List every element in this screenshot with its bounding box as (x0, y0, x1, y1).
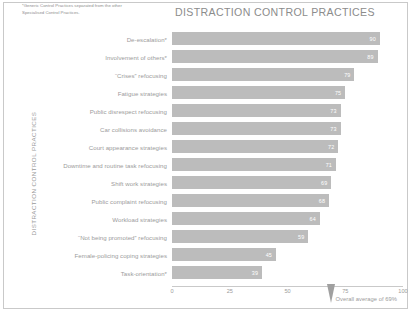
bar-value-label: 73 (330, 108, 336, 114)
category-label: Fatigue strategies (118, 89, 167, 96)
bar[interactable]: 90 (172, 32, 380, 45)
x-axis-tick-label: 50 (284, 288, 290, 294)
category-label: Task-orientation* (121, 269, 167, 276)
bar-value-label: 73 (330, 126, 336, 132)
category-label: Public disrespect refocusing (90, 107, 167, 114)
category-label: “Crises” refocusing (115, 71, 167, 78)
bar-value-label: 79 (344, 72, 350, 78)
bar[interactable]: 59 (172, 230, 308, 243)
bar-row: Shift work strategies69 (172, 176, 403, 189)
category-label: Court appearance strategies (89, 143, 167, 150)
bar[interactable]: 89 (172, 50, 378, 63)
bar-value-label: 64 (310, 216, 316, 222)
bar-value-label: 68 (319, 198, 325, 204)
bar-value-label: 59 (298, 234, 304, 240)
bar-value-label: 39 (252, 270, 258, 276)
bar-value-label: 69 (321, 180, 327, 186)
bar[interactable]: 79 (172, 68, 354, 81)
bar-row: Court appearance strategies72 (172, 140, 403, 153)
bar-row: Female-policing coping strategies45 (172, 248, 403, 261)
chart-figure: *Generic Control Practices separated fro… (0, 0, 411, 313)
category-label: Involvement of others* (105, 53, 167, 60)
category-label: De-escalation* (127, 35, 167, 42)
bar-row: De-escalation*90 (172, 32, 403, 45)
bar-value-label: 90 (370, 36, 376, 42)
bar-value-label: 72 (328, 144, 334, 150)
chart-title: DISTRACTION CONTROL PRACTICES (150, 6, 400, 18)
category-label: Car collisions avoidance (100, 125, 167, 132)
bar-row: Involvement of others*89 (172, 50, 403, 63)
y-axis-title: DISTRACTION CONTROL PRACTICES (30, 86, 37, 261)
bar[interactable]: 72 (172, 140, 338, 153)
bar-row: Car collisions avoidance73 (172, 122, 403, 135)
category-label: “Not being promoted” refocusing (78, 233, 167, 240)
category-label: Downtime and routine task refocusing (63, 161, 167, 168)
bar-value-label: 75 (335, 90, 341, 96)
plot-area: De-escalation*90Involvement of others*89… (172, 30, 403, 282)
bar[interactable]: 73 (172, 122, 341, 135)
average-marker-icon (327, 284, 335, 303)
x-axis-tick-label: 0 (170, 288, 173, 294)
x-axis-tick-label: 25 (227, 288, 233, 294)
bar-row: Public disrespect refocusing73 (172, 104, 403, 117)
bar[interactable]: 45 (172, 248, 276, 261)
bar[interactable]: 68 (172, 194, 329, 207)
bar-row: Downtime and routine task refocusing71 (172, 158, 403, 171)
bar-row: Task-orientation*39 (172, 266, 403, 279)
x-axis-tick-label: 75 (342, 288, 348, 294)
bar-row: Workload strategies64 (172, 212, 403, 225)
category-label: Workload strategies (112, 215, 167, 222)
bar-value-label: 89 (367, 54, 373, 60)
footnote-text: *Generic Control Practices separated fro… (22, 3, 130, 17)
bar-row: “Crises” refocusing79 (172, 68, 403, 81)
category-label: Shift work strategies (111, 179, 167, 186)
bar[interactable]: 69 (172, 176, 331, 189)
bar-value-label: 71 (326, 162, 332, 168)
bar-row: “Not being promoted” refocusing59 (172, 230, 403, 243)
average-annotation: Overall average of 69% (335, 296, 397, 302)
x-axis-tick-label: 100 (398, 288, 407, 294)
bar-value-label: 45 (266, 252, 272, 258)
x-axis-line (172, 286, 403, 287)
bar[interactable]: 73 (172, 104, 341, 117)
bar[interactable]: 64 (172, 212, 320, 225)
bar-row: Fatigue strategies75 (172, 86, 403, 99)
bar[interactable]: 71 (172, 158, 336, 171)
bar-row: Public complaint refocusing68 (172, 194, 403, 207)
category-label: Female-policing coping strategies (75, 251, 167, 258)
bar[interactable]: 39 (172, 266, 262, 279)
bar[interactable]: 75 (172, 86, 345, 99)
category-label: Public complaint refocusing (91, 197, 167, 204)
